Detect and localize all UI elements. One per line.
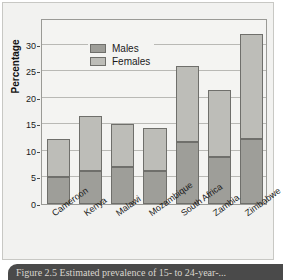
bar-group <box>240 34 263 204</box>
y-tick-label: 20 <box>20 95 36 104</box>
legend-item-females: Females <box>90 55 150 68</box>
bar-segment-females <box>176 66 199 143</box>
bar-segment-males <box>240 139 263 204</box>
legend-label-females: Females <box>112 57 150 67</box>
legend-item-males: Males <box>90 42 150 55</box>
y-tick-label: 30 <box>20 42 36 51</box>
y-tick-label: 25 <box>20 68 36 77</box>
bar-segment-females <box>143 128 166 171</box>
figure-caption-bar: Figure 2.5 Estimated prevalence of 15- t… <box>8 264 283 280</box>
y-tick-mark <box>37 178 40 179</box>
y-tick-mark <box>37 205 40 206</box>
y-tick-label: 10 <box>20 148 36 157</box>
legend-swatch-males <box>90 44 106 53</box>
y-tick-mark <box>37 125 40 126</box>
bar-group <box>143 128 166 204</box>
y-tick-label: 5 <box>20 174 36 183</box>
bar-group <box>111 124 134 204</box>
y-tick-mark <box>37 72 40 73</box>
bar-segment-females <box>79 116 102 171</box>
y-tick-mark <box>37 152 40 153</box>
y-tick-label: 15 <box>20 121 36 130</box>
bar-segment-females <box>240 34 263 139</box>
legend-label-males: Males <box>112 44 139 54</box>
chart-panel: Percentage 051015202530 Males Females Ca… <box>2 2 274 260</box>
figure-root: Percentage 051015202530 Males Females Ca… <box>0 0 283 280</box>
figure-caption: Figure 2.5 Estimated prevalence of 15- t… <box>16 267 226 278</box>
y-tick-mark <box>37 46 40 47</box>
plot-area: Males Females <box>41 19 267 205</box>
bar-segment-females <box>111 124 134 167</box>
bar-segment-females <box>208 90 231 157</box>
bar-group <box>47 139 70 204</box>
legend-swatch-females <box>90 57 106 66</box>
y-tick-label: 0 <box>20 201 36 210</box>
y-tick-mark <box>37 99 40 100</box>
chart-legend: Males Females <box>88 40 154 70</box>
bar-segment-females <box>47 139 70 177</box>
